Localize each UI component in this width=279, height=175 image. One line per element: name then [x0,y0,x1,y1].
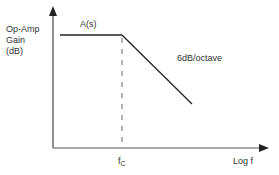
curve-label: A(s) [80,19,97,30]
corner-frequency-subscript: C [121,160,126,167]
corner-frequency-label: fC [118,156,126,169]
rolloff-line [122,35,192,104]
y-axis-label-line-1: Op-Amp [6,24,40,35]
x-axis-arrow-icon [259,144,269,152]
y-axis-label: Op-Amp Gain (dB) [6,24,40,57]
bode-plot-canvas [0,0,279,175]
y-axis-label-line-2: Gain [6,35,40,46]
slope-label: 6dB/octave [177,53,222,64]
x-axis-label: Log f [233,156,253,167]
y-axis-arrow-icon [49,6,57,16]
y-axis-label-line-3: (dB) [6,46,40,57]
